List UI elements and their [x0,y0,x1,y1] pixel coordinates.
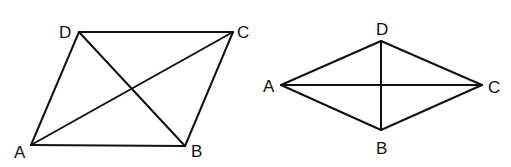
parallelogram-segment-AB [31,145,185,146]
geometry-diagram: ABCD ABCD [0,0,511,167]
rhombus-vertex-label-A: A [263,77,275,96]
parallelogram-segment-BC [185,32,233,146]
rhombus-segment-AB [281,85,381,130]
parallelogram-figure: ABCD [14,23,249,162]
rhombus-segment-BC [381,85,482,130]
rhombus-vertex-label-C: C [488,78,500,97]
parallelogram-vertex-label-D: D [59,23,71,42]
rhombus-vertex-label-B: B [376,139,387,158]
parallelogram-vertex-label-C: C [237,23,249,42]
rhombus-figure: ABCD [263,20,500,158]
rhombus-segment-CD [381,41,482,85]
parallelogram-segment-BD [79,32,185,146]
rhombus-vertex-label-D: D [376,20,388,39]
rhombus-segment-DA [281,41,381,85]
parallelogram-vertex-label-A: A [14,143,26,162]
parallelogram-vertex-label-B: B [191,142,202,161]
parallelogram-segment-DA [31,32,79,145]
